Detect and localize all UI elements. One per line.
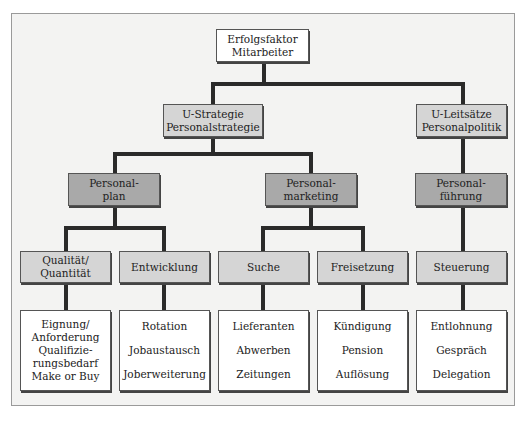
connector [261,283,265,310]
node-label: plan [102,190,125,203]
connector [361,283,365,310]
connector [64,226,166,230]
node-qualitaet-quantitaet: Qualität/ Quantität [20,251,111,283]
node-label: Personal- [436,177,485,190]
list-item: Abwerben [236,344,290,357]
connector [162,283,166,310]
node-label: Steuerung [434,261,490,274]
list-item: Zeitungen [236,368,290,381]
connector [461,137,465,173]
list-item: Eignung/ [41,318,89,331]
node-personalmarketing: Personal- marketing [265,173,357,206]
list-item: Gespräch [436,344,487,357]
node-suche: Suche [218,251,309,283]
node-label: Freisetzung [331,261,394,274]
node-label: führung [440,190,483,203]
node-label: Quantität [40,267,91,280]
node-label: Personalstrategie [166,121,260,134]
node-label: Entwicklung [131,261,198,274]
connector [162,226,166,251]
connector [113,152,117,173]
list-item: rungsbedarf [33,357,98,370]
node-personalplan: Personal- plan [68,173,160,206]
node-label: U-Leitsätze [431,108,492,121]
node-label: Mitarbeiter [232,46,293,59]
list-item: Joberweiterung [123,368,206,381]
node-personalfuehrung: Personal- führung [415,173,507,206]
node-u-leitsaetze: U-Leitsätze Personalpolitik [416,104,507,137]
node-lieferanten-list: Lieferanten Abwerben Zeitungen [218,310,309,391]
node-label: Suche [247,261,280,274]
connector [64,226,68,251]
node-eignung-list: Eignung/ Anforderung Qualifizie- rungsbe… [20,310,111,391]
node-label: marketing [284,190,339,203]
connector [309,152,313,173]
list-item: Lieferanten [233,320,295,333]
connector [211,82,465,86]
node-entwicklung: Entwicklung [119,251,210,283]
connector [261,226,265,251]
connector [361,226,365,251]
node-u-strategie: U-Strategie Personalstrategie [163,104,263,137]
node-rotation-list: Rotation Jobaustausch Joberweiterung [119,310,210,391]
connector [461,82,465,104]
list-item: Delegation [433,368,491,381]
connector [261,226,365,230]
list-item: Entlohnung [430,320,492,333]
connector [64,283,68,310]
node-label: Personal- [89,177,138,190]
list-item: Anforderung [32,331,100,344]
list-item: Auflösung [336,368,389,381]
node-label: Qualität/ [42,254,89,267]
list-item: Pension [342,344,383,357]
node-label: Personalpolitik [422,121,502,134]
list-item: Qualifizie- [38,344,92,357]
list-item: Make or Buy [31,370,99,383]
connector [461,206,465,251]
list-item: Rotation [142,320,187,333]
node-steuerung: Steuerung [416,251,507,283]
node-label: Personal- [286,177,335,190]
node-kuendigung-list: Kündigung Pension Auflösung [317,310,408,391]
list-item: Jobaustausch [129,344,200,357]
node-freisetzung: Freisetzung [317,251,408,283]
node-entlohnung-list: Entlohnung Gespräch Delegation [416,310,507,391]
node-erfolgsfaktor-mitarbeiter: Erfolgsfaktor Mitarbeiter [216,29,309,62]
connector [113,152,313,156]
node-label: U-Strategie [182,108,244,121]
connector [461,283,465,310]
connector [211,82,215,104]
node-label: Erfolgsfaktor [227,33,297,46]
list-item: Kündigung [333,320,391,333]
